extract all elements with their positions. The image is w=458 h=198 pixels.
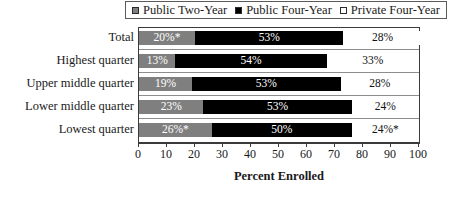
category-label-total: Total (0, 31, 134, 44)
bar-segment-private-four-year: 33% (327, 54, 419, 68)
table-row: 23% 53% 24% (139, 100, 419, 114)
category-label-lowest-quarter: Lowest quarter (0, 123, 134, 136)
legend-swatch-public-two-year (132, 7, 139, 14)
legend-item-private-four-year: Private Four-Year (340, 4, 440, 17)
x-axis-tick-label: 10 (151, 148, 181, 160)
bar-segment-public-four-year: 53% (192, 77, 340, 91)
category-label-upper-middle-quarter: Upper middle quarter (0, 77, 134, 90)
bar-segment-public-four-year: 53% (195, 31, 343, 45)
x-axis-tick-label: 40 (235, 148, 265, 160)
bar-segment-public-two-year: 19% (139, 77, 192, 91)
x-axis-tick-label: 0 (123, 148, 153, 160)
row-separator (139, 72, 419, 73)
bar-segment-public-four-year: 53% (203, 100, 351, 114)
legend-label-public-two-year: Public Two-Year (143, 4, 227, 17)
bar-segment-public-four-year: 54% (175, 54, 326, 68)
stacked-bar-chart: Public Two-Year Public Four-Year Private… (0, 0, 458, 198)
table-row: 13% 54% 33% (139, 54, 419, 68)
table-row: 19% 53% 28% (139, 77, 419, 91)
category-axis-labels: Total Highest quarter Upper middle quart… (0, 27, 134, 143)
row-separator (139, 118, 419, 119)
x-axis-line (138, 143, 420, 144)
x-axis-tick-label: 90 (375, 148, 405, 160)
category-label-lower-middle-quarter: Lower middle quarter (0, 100, 134, 113)
x-axis-tick-label: 30 (207, 148, 237, 160)
bar-segment-public-two-year: 23% (139, 100, 203, 114)
row-separator (139, 95, 419, 96)
row-separator (139, 49, 419, 50)
bar-segment-public-four-year: 50% (212, 123, 352, 137)
bar-segment-private-four-year: 28% (341, 77, 419, 91)
bar-segment-public-two-year: 26%* (139, 123, 212, 137)
table-row: 26%* 50% 24%* (139, 123, 419, 137)
legend-label-public-four-year: Public Four-Year (246, 4, 332, 17)
bar-segment-private-four-year: 28% (343, 31, 421, 45)
x-axis-tick-label: 80 (347, 148, 377, 160)
category-label-highest-quarter: Highest quarter (0, 54, 134, 67)
legend-swatch-public-four-year (235, 7, 242, 14)
bar-segment-public-two-year: 13% (139, 54, 175, 68)
legend-item-public-two-year: Public Two-Year (132, 4, 227, 17)
plot-area: 20%* 53% 28% 13% 54% 33% 19% 53% 28% 23%… (138, 27, 420, 143)
x-axis-tick-label: 50 (263, 148, 293, 160)
table-row: 20%* 53% 28% (139, 31, 422, 45)
legend-swatch-private-four-year (340, 7, 347, 14)
x-axis-tick-label: 70 (319, 148, 349, 160)
chart-legend: Public Two-Year Public Four-Year Private… (125, 1, 447, 19)
x-axis-tick-label: 60 (291, 148, 321, 160)
legend-label-private-four-year: Private Four-Year (351, 4, 440, 17)
x-axis-tick-label: 20 (179, 148, 209, 160)
x-axis-title: Percent Enrolled (138, 170, 420, 183)
bar-segment-private-four-year: 24%* (352, 123, 419, 137)
legend-item-public-four-year: Public Four-Year (235, 4, 332, 17)
bar-segment-private-four-year: 24% (352, 100, 419, 114)
bar-segment-public-two-year: 20%* (139, 31, 195, 45)
x-axis-tick-label: 100 (403, 148, 433, 160)
